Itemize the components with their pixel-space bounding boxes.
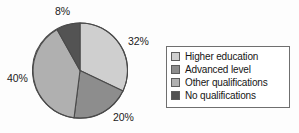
legend-label-higher-education: Higher education [185, 51, 258, 62]
legend-item-other-qualifications[interactable]: Other qualifications [171, 76, 285, 89]
legend-label-other-qualifications: Other qualifications [185, 77, 268, 88]
legend-item-advanced-level[interactable]: Advanced level [171, 63, 285, 76]
legend-swatch-icon-no-qualifications [171, 91, 180, 100]
legend-swatch-icon-other-qualifications [171, 78, 180, 87]
pie-label-other-qualifications: 40% [7, 72, 28, 84]
chart-legend: Higher education Advanced level Other qu… [166, 46, 290, 108]
pie-chart-graphic [32, 22, 128, 119]
legend-label-no-qualifications: No qualifications [185, 90, 256, 101]
legend-swatch-icon-higher-education [171, 52, 180, 61]
pie-label-no-qualifications: 8% [55, 5, 70, 17]
pie-label-advanced-level: 20% [113, 111, 134, 123]
legend-item-no-qualifications[interactable]: No qualifications [171, 89, 285, 102]
pie-svg [32, 22, 128, 119]
pie-chart-figure: 8% 32% 20% 40% Higher education Advanced… [0, 0, 299, 133]
legend-swatch-icon-advanced-level [171, 65, 180, 74]
legend-label-advanced-level: Advanced level [185, 64, 251, 75]
legend-item-higher-education[interactable]: Higher education [171, 50, 285, 63]
pie-label-higher-education: 32% [128, 35, 149, 47]
